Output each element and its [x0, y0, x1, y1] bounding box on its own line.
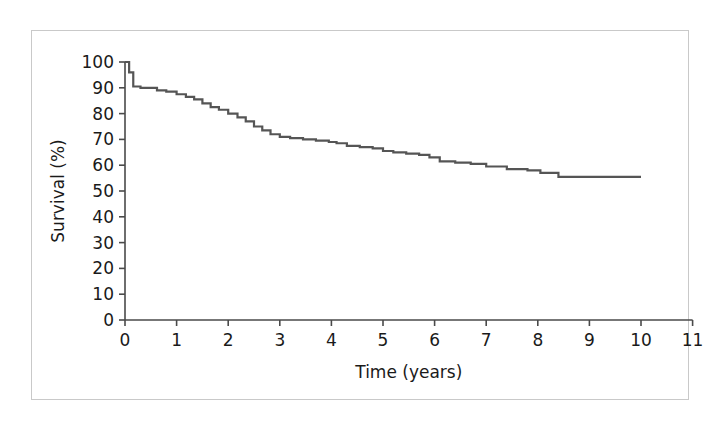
x-axis-tick-label: 4	[326, 330, 337, 350]
y-axis-tick-label: 100	[82, 52, 114, 72]
survival-curve-group	[125, 62, 641, 177]
x-axis-tick-label: 5	[378, 330, 389, 350]
y-axis-tick-label: 30	[92, 233, 114, 253]
x-axis-tick-label: 8	[532, 330, 543, 350]
y-axis-tick-label: 20	[92, 258, 114, 278]
y-axis-tick-label: 60	[92, 155, 114, 175]
survival-chart: 010203040506070809010001234567891011 Tim…	[0, 0, 717, 429]
y-axis-tick-label: 10	[92, 284, 114, 304]
y-axis-tick-label: 0	[103, 310, 114, 330]
axes-group: 010203040506070809010001234567891011	[82, 52, 704, 350]
x-axis-title: Time (years)	[354, 362, 462, 382]
y-axis-tick-label: 80	[92, 104, 114, 124]
y-axis-tick-label: 70	[92, 129, 114, 149]
x-axis-tick-label: 11	[682, 330, 704, 350]
figure-container: 010203040506070809010001234567891011 Tim…	[0, 0, 717, 429]
x-axis-tick-label: 7	[481, 330, 492, 350]
x-axis-tick-label: 10	[630, 330, 652, 350]
y-axis-tick-label: 90	[92, 78, 114, 98]
y-axis-tick-label: 40	[92, 207, 114, 227]
x-axis-tick-label: 1	[171, 330, 182, 350]
survival-curve-line	[125, 62, 641, 177]
x-axis-tick-label: 0	[120, 330, 131, 350]
x-axis-tick-label: 3	[274, 330, 285, 350]
x-axis-tick-label: 2	[223, 330, 234, 350]
y-axis-title: Survival (%)	[48, 139, 68, 242]
y-axis-tick-label: 50	[92, 181, 114, 201]
x-axis-tick-label: 6	[429, 330, 440, 350]
x-axis-tick-label: 9	[584, 330, 595, 350]
